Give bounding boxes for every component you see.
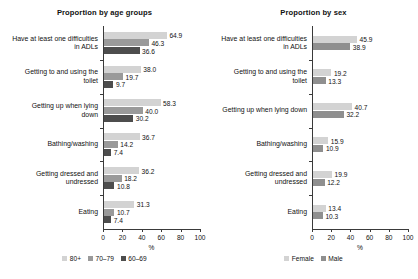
y-axis-tick (309, 128, 312, 129)
bar (313, 69, 331, 76)
y-axis-tick (309, 94, 312, 95)
bar (104, 32, 167, 39)
category-label: Getting to and using the toilet (210, 68, 307, 85)
x-axis-tick (350, 229, 351, 232)
x-axis-tick (181, 229, 182, 232)
bar-value-label: 19.9 (335, 171, 348, 178)
bar-value-label: 10.8 (117, 183, 130, 190)
y-axis-tick (309, 60, 312, 61)
bar (313, 205, 326, 212)
y-axis-tick (309, 161, 312, 162)
y-axis-tick (100, 128, 103, 129)
legend-label: Male (328, 255, 342, 262)
bar-value-label: 36.2 (142, 168, 155, 175)
legend-label: 80+ (70, 255, 81, 262)
bar (104, 47, 140, 54)
bar (104, 73, 123, 80)
x-axis-tick-label: 60 (366, 234, 373, 241)
panel-sex: Proportion by sex 020406080100%Have at l… (209, 0, 418, 279)
x-axis-line (312, 229, 408, 230)
x-axis-tick-label: 20 (119, 234, 126, 241)
x-axis-label: % (312, 244, 408, 251)
bar (104, 115, 133, 122)
x-axis-tick (142, 229, 143, 232)
bar (104, 133, 140, 140)
bar (313, 103, 352, 110)
x-axis-tick (370, 229, 371, 232)
bar-value-label: 7.4 (114, 217, 123, 224)
bar-value-label: 13.4 (328, 205, 341, 212)
bar (104, 107, 143, 114)
y-axis-tick (309, 195, 312, 196)
bar (104, 182, 114, 189)
bar-value-label: 19.7 (126, 74, 139, 81)
legend-item[interactable]: 70–79 (88, 255, 114, 262)
bar (313, 171, 332, 178)
x-axis-tick (122, 229, 123, 232)
bar (313, 145, 323, 152)
x-axis-label: % (103, 244, 200, 251)
bar (104, 66, 141, 73)
bar-value-label: 45.9 (360, 36, 373, 43)
x-axis-tick-label: 100 (402, 234, 413, 241)
figure-two-panel-bar-charts: Proportion by age groups 020406080100%Ha… (0, 0, 418, 279)
y-axis-line (312, 26, 313, 229)
y-axis-tick (100, 161, 103, 162)
bar (104, 209, 114, 216)
bar-value-label: 38.0 (143, 66, 156, 73)
y-axis-tick (100, 60, 103, 61)
bar-value-label: 13.3 (328, 78, 341, 85)
x-axis-tick (408, 229, 409, 232)
bar-value-label: 30.2 (136, 115, 149, 122)
bar-value-label: 9.7 (116, 81, 125, 88)
bar (313, 137, 328, 144)
y-axis-tick (100, 195, 103, 196)
legend-item[interactable]: Male (321, 255, 343, 262)
bar-value-label: 18.2 (124, 175, 137, 182)
category-label: Getting up when lying down (210, 106, 307, 114)
bar-value-label: 36.7 (142, 134, 155, 141)
x-axis-tick-label: 80 (385, 234, 392, 241)
legend-item[interactable]: Female (284, 255, 314, 262)
bar (313, 77, 326, 84)
panel-title-age-groups: Proportion by age groups (0, 8, 209, 17)
bar (313, 179, 325, 186)
bar-value-label: 32.2 (346, 111, 359, 118)
category-label: Eating (1, 208, 98, 216)
bar-value-label: 19.2 (334, 70, 347, 77)
bar-value-label: 31.3 (137, 201, 150, 208)
x-axis-tick (312, 229, 313, 232)
legend: 80+70–7960–69 (0, 255, 209, 262)
category-label: Getting to and using the toilet (1, 68, 98, 85)
x-axis-line (103, 229, 200, 230)
x-axis-tick (331, 229, 332, 232)
bar (104, 141, 118, 148)
plot-area-age-groups (103, 26, 200, 229)
panel-age-groups: Proportion by age groups 020406080100%Ha… (0, 0, 209, 279)
legend-item[interactable]: 80+ (62, 255, 81, 262)
bar-value-label: 14.2 (120, 141, 133, 148)
x-axis-tick-label: 80 (177, 234, 184, 241)
bar-value-label: 58.3 (163, 100, 176, 107)
bar-value-label: 40.7 (355, 104, 368, 111)
bar-value-label: 10.9 (326, 145, 339, 152)
bar (104, 81, 113, 88)
category-label: Eating (210, 208, 307, 216)
bar-value-label: 46.3 (151, 40, 164, 47)
legend-label: 70–79 (96, 255, 114, 262)
plot-area-sex (312, 26, 408, 229)
bar-value-label: 38.9 (353, 44, 366, 51)
bar-value-label: 10.7 (117, 209, 130, 216)
x-axis-tick (200, 229, 201, 232)
x-axis-tick-label: 40 (347, 234, 354, 241)
category-label: Have at least one difficulties in ADLs (1, 35, 98, 52)
bar (313, 36, 357, 43)
legend-item[interactable]: 60–69 (121, 255, 147, 262)
y-axis-tick (100, 94, 103, 95)
legend-label: Female (292, 255, 314, 262)
bar (313, 212, 323, 219)
x-axis-tick-label: 100 (194, 234, 205, 241)
legend-swatch-icon (284, 256, 289, 261)
legend-swatch-icon (121, 256, 126, 261)
x-axis-tick (389, 229, 390, 232)
